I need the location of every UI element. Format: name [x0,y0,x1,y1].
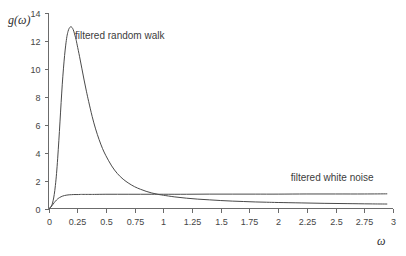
y-tick-label-14: 14 [30,9,40,19]
y-tick-label-10: 10 [30,65,40,75]
chart-background [0,0,406,256]
y-tick-label-6: 6 [35,121,40,131]
y-tick-label-4: 4 [35,149,40,159]
annotation-filtered-white-noise: filtered white noise [291,172,374,183]
y-axis-label: g(ω) [8,13,30,27]
y-tick-label-8: 8 [35,93,40,103]
x-tick-label-3: 3 [391,217,396,227]
y-tick-label-0: 0 [35,205,40,215]
x-axis-label: ω [377,234,385,248]
x-tick-label-2.25: 2.25 [299,217,317,227]
x-tick-label-1: 1 [161,217,166,227]
x-tick-label-1.25: 1.25 [184,217,202,227]
x-tick-label-0.75: 0.75 [127,217,145,227]
x-tick-label-2.5: 2.5 [330,217,343,227]
annotation-filtered-random-walk: filtered random walk [75,30,165,41]
x-tick-label-2.75: 2.75 [356,217,374,227]
chart-figure: 02468101214 00.250.50.7511.251.51.7522.2… [0,0,406,256]
spectral-density-chart: 02468101214 00.250.50.7511.251.51.7522.2… [0,0,406,256]
y-tick-label-2: 2 [35,177,40,187]
x-tick-label-0.5: 0.5 [100,217,113,227]
x-tick-label-0: 0 [47,217,52,227]
x-tick-label-1.5: 1.5 [215,217,228,227]
x-tick-label-1.75: 1.75 [241,217,259,227]
x-tick-label-2: 2 [276,217,281,227]
y-tick-label-12: 12 [30,37,40,47]
x-tick-label-0.25: 0.25 [69,217,87,227]
